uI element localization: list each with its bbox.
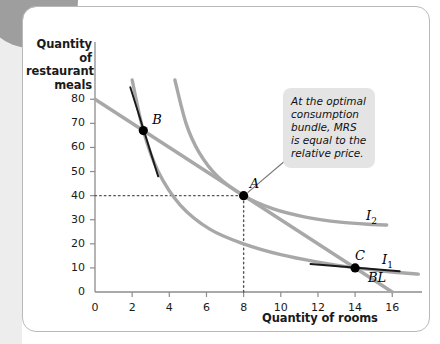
y-tick-label: 40	[61, 189, 85, 202]
x-tick-label: 8	[229, 301, 259, 314]
x-axis-title: Quantity of rooms	[262, 312, 412, 326]
point-label-c: C	[355, 248, 365, 263]
x-tick-label: 0	[80, 301, 110, 314]
y-tick-label: 50	[61, 165, 85, 178]
curve-I1	[132, 80, 418, 274]
y-axis-title: Quantity of restaurant meals	[26, 38, 92, 92]
x-tick-label: 16	[377, 301, 407, 314]
y-tick-label: 20	[61, 237, 85, 250]
curve-label-i2: I2	[366, 208, 377, 226]
x-tick-label: 2	[117, 301, 147, 314]
data-point-b[interactable]	[139, 126, 148, 135]
x-tick-label: 4	[154, 301, 184, 314]
x-tick-label: 6	[191, 301, 221, 314]
x-tick-label: 14	[340, 301, 370, 314]
point-label-a: A	[250, 176, 259, 191]
y-tick-label: 60	[61, 140, 85, 153]
curve-label-i1: I1	[382, 252, 393, 270]
optimal-bundle-callout: At the optimal consumption bundle, MRS i…	[283, 88, 375, 168]
y-tick-label: 30	[61, 213, 85, 226]
chart-figure: Quantity of restaurant meals Quantity of…	[0, 0, 440, 344]
y-tick-label: 10	[61, 261, 85, 274]
x-tick-label: 10	[266, 301, 296, 314]
curve-label-bl: BL	[368, 270, 386, 285]
y-tick-label: 0	[61, 285, 85, 298]
x-tick-label: 12	[303, 301, 333, 314]
y-tick-label: 80	[61, 92, 85, 105]
data-point-a[interactable]	[239, 191, 248, 200]
data-point-c[interactable]	[351, 263, 360, 272]
point-label-b: B	[152, 112, 162, 127]
y-tick-label: 70	[61, 116, 85, 129]
